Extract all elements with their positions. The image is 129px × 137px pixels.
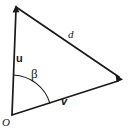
origin-label: O	[2, 117, 10, 128]
vector-triangle-figure: u v d β O	[0, 0, 129, 137]
arrowhead-right-vertex-icon	[116, 75, 124, 83]
vector-v-label: v	[61, 96, 67, 107]
angle-beta-label: β	[31, 67, 38, 80]
vector-u-label: u	[16, 53, 23, 64]
side-d-label: d	[68, 29, 74, 40]
vector-diagram-canvas	[0, 0, 129, 137]
